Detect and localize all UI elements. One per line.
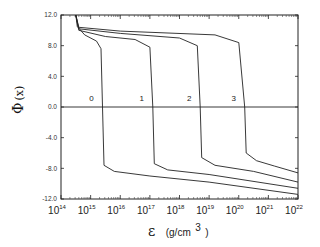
chart: 12.08.04.00.0-4.0-8.0-12.0 1014101510161…	[0, 0, 320, 247]
x-tick-label: 1014	[48, 204, 66, 216]
x-axis-label: ε (g/cm 3 )	[148, 217, 209, 239]
x-tick-label: 1016	[107, 204, 125, 216]
curve-label-1: 1	[140, 94, 145, 103]
y-tick-label: 8.0	[48, 42, 57, 49]
curve-0	[76, 15, 298, 194]
curve-label-0: 0	[89, 94, 94, 103]
x-axis-unit-exponent: 3	[195, 222, 201, 233]
x-tick-label: 1022	[285, 204, 303, 216]
x-axis-symbol: ε	[148, 223, 155, 239]
y-tick-label: 0.0	[48, 103, 57, 110]
x-tick-label: 1018	[167, 204, 185, 216]
y-tick-label: 12.0	[44, 11, 57, 18]
x-tick-label: 1021	[255, 204, 273, 216]
curve-label-3: 3	[231, 94, 236, 103]
curves	[76, 15, 298, 194]
x-axis-unit-close: )	[205, 227, 208, 238]
x-tick-label: 1019	[196, 204, 214, 216]
y-axis-label: Φ(x)	[10, 86, 26, 114]
x-axis-unit: (g/cm	[166, 227, 191, 238]
x-tick-label: 1015	[78, 204, 96, 216]
y-tick-label: 4.0	[48, 73, 57, 80]
curve-label-2: 2	[187, 94, 192, 103]
y-axis-symbol: Φ	[10, 103, 26, 114]
y-tick-label: -4.0	[46, 134, 58, 141]
y-tick-label: -8.0	[46, 165, 58, 172]
curve-labels: 0123	[89, 94, 236, 103]
y-tick-label: -12.0	[42, 195, 57, 202]
x-axis-ticks: 101410151016101710181019102010211022	[48, 15, 303, 216]
x-tick-label: 1020	[226, 204, 244, 216]
x-tick-label: 1017	[137, 204, 155, 216]
